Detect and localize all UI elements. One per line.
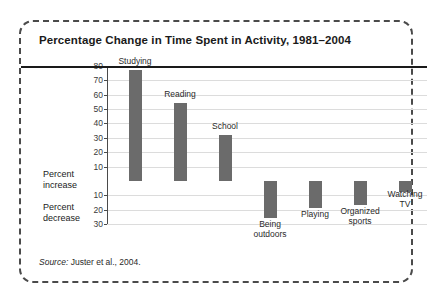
- bar: [219, 135, 232, 181]
- bar: [309, 181, 322, 208]
- bar-label: Being outdoors: [253, 220, 286, 239]
- bar-label: Reading: [164, 90, 196, 100]
- bar-label: School: [212, 122, 238, 132]
- y-tick-label: 50: [94, 105, 103, 114]
- zero-baseline: [21, 66, 427, 68]
- bar-label: Studying: [118, 57, 151, 67]
- source-prefix: Source:: [39, 257, 68, 267]
- bar: [354, 181, 367, 205]
- y-axis-line: [107, 66, 108, 224]
- y-tick-label: 30: [94, 134, 103, 143]
- axis-caption-decrease: Percent decrease: [43, 202, 80, 225]
- bar: [264, 181, 277, 218]
- y-tick-label: 20: [94, 148, 103, 157]
- figure-frame: Percentage Change in Time Spent in Activ…: [19, 20, 413, 283]
- gridline: [107, 95, 427, 96]
- gridline: [107, 123, 427, 124]
- gridline: [107, 109, 427, 110]
- y-tick-mark: [104, 224, 107, 225]
- y-tick-label: 20: [94, 205, 103, 214]
- y-tick-label: 40: [94, 119, 103, 128]
- y-tick-label: 10: [94, 191, 103, 200]
- bar-label: Watching TV: [387, 190, 422, 209]
- bar: [129, 70, 142, 181]
- chart-title: Percentage Change in Time Spent in Activ…: [39, 34, 351, 46]
- y-tick-label: 70: [94, 76, 103, 85]
- source-note: Source: Juster et al., 2004.: [39, 257, 141, 267]
- bar-label: Playing: [301, 210, 329, 220]
- gridline: [107, 167, 427, 168]
- bar: [174, 103, 187, 181]
- bar-label: Organized sports: [340, 207, 379, 226]
- y-tick-label: 10: [94, 162, 103, 171]
- gridline: [107, 138, 427, 139]
- source-text: Juster et al., 2004.: [68, 257, 140, 267]
- axis-caption-increase: Percent increase: [43, 169, 77, 192]
- gridline: [107, 152, 427, 153]
- plot-area: 8070605040302010102030 StudyingReadingSc…: [107, 66, 427, 224]
- gridline: [107, 80, 427, 81]
- y-tick-label: 30: [94, 220, 103, 229]
- y-tick-label: 60: [94, 90, 103, 99]
